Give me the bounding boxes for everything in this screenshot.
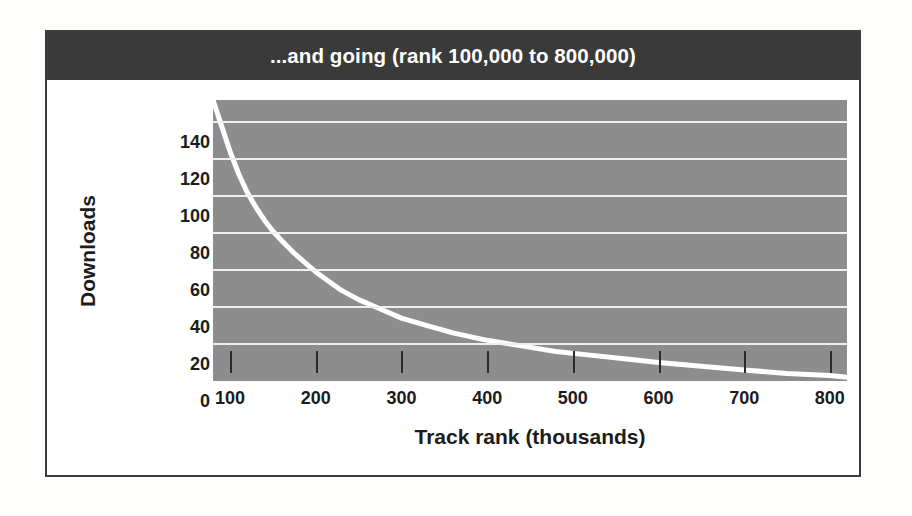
chart-title-bar: ...and going (rank 100,000 to 800,000): [47, 32, 859, 80]
grid-line: [213, 343, 847, 345]
grid-line: [213, 121, 847, 123]
y-tick-label: 80: [190, 243, 210, 264]
y-tick-label: 0: [200, 391, 210, 412]
chart-body: Downloads 020406080100120140 10020030040…: [47, 80, 859, 475]
y-tick-label: 40: [190, 317, 210, 338]
y-tick-label: 120: [180, 169, 210, 190]
x-tick-label: 500: [558, 388, 588, 409]
grid-line: [213, 158, 847, 160]
x-tick-label: 300: [386, 388, 416, 409]
y-tick-label: 140: [180, 132, 210, 153]
x-axis-tick-labels: 100200300400500600700800: [213, 388, 847, 414]
x-tick-label: 100: [215, 388, 245, 409]
chart-figure: ...and going (rank 100,000 to 800,000) D…: [45, 30, 861, 477]
x-tick-mark: [830, 351, 832, 373]
y-tick-label: 60: [190, 280, 210, 301]
x-tick-mark: [573, 351, 575, 373]
y-axis-title: Downloads: [73, 176, 103, 326]
grid-line: [213, 232, 847, 234]
x-tick-mark: [487, 351, 489, 373]
x-tick-mark: [230, 351, 232, 373]
grid-line: [213, 269, 847, 271]
x-tick-label: 200: [301, 388, 331, 409]
grid-line: [213, 195, 847, 197]
x-tick-mark: [659, 351, 661, 373]
y-tick-label: 20: [190, 354, 210, 375]
y-tick-label: 100: [180, 206, 210, 227]
chart-title: ...and going (rank 100,000 to 800,000): [270, 44, 636, 68]
x-tick-label: 400: [472, 388, 502, 409]
x-tick-label: 700: [729, 388, 759, 409]
plot-area: [213, 100, 847, 381]
grid-line: [213, 306, 847, 308]
series-line-downloads: [213, 100, 847, 377]
x-tick-label: 600: [643, 388, 673, 409]
x-tick-label: 800: [815, 388, 845, 409]
y-axis-title-label: Downloads: [76, 195, 100, 307]
x-axis-title: Track rank (thousands): [213, 425, 847, 449]
x-tick-mark: [316, 351, 318, 373]
y-axis-tick-labels: 020406080100120140: [142, 100, 210, 381]
downloads-curve: [213, 100, 847, 381]
x-tick-mark: [401, 351, 403, 373]
x-tick-mark: [744, 351, 746, 373]
